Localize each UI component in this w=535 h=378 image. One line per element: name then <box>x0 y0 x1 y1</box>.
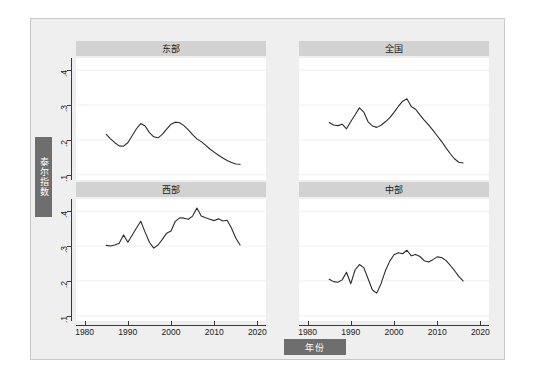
x-tick-mark <box>128 321 129 325</box>
x-tick-label: 2010 <box>201 328 227 337</box>
x-tick-mark <box>257 321 258 325</box>
x-tick-label: 2020 <box>244 328 270 337</box>
y-tick-label: .3 <box>60 246 68 268</box>
panel-title-national: 全国 <box>299 41 489 56</box>
panel-east: 东部 <box>76 41 266 180</box>
y-tick-label: .4 <box>60 211 68 233</box>
x-tick-label: 1990 <box>115 328 141 337</box>
series-line-central <box>329 250 463 293</box>
x-tick-mark <box>351 321 352 325</box>
y-axis-line-row0 <box>71 58 72 180</box>
plot-area-west <box>76 199 266 321</box>
panel-title-east: 东部 <box>76 41 266 56</box>
y-tick-label: .2 <box>60 140 68 162</box>
y-tick-label: .4 <box>60 70 68 92</box>
y-axis-line-row1 <box>71 199 72 321</box>
panel-central: 中部 <box>299 182 489 321</box>
x-tick-label: 2020 <box>467 328 493 337</box>
y-tick-label: .2 <box>60 281 68 303</box>
series-line-national <box>329 99 463 163</box>
x-tick-mark <box>480 321 481 325</box>
plot-area-central <box>299 199 489 321</box>
x-axis-line-col0 <box>76 325 266 326</box>
y-tick-label: .1 <box>60 316 68 338</box>
panel-title-central: 中部 <box>299 182 489 197</box>
x-tick-label: 2010 <box>424 328 450 337</box>
x-tick-mark <box>394 321 395 325</box>
plot-area-east <box>76 58 266 180</box>
panel-title-west: 西部 <box>76 182 266 197</box>
panel-national: 全国 <box>299 41 489 180</box>
x-tick-label: 2000 <box>158 328 184 337</box>
figure-container: 泰尔指数 年份 东部全国西部中部 .1.2.3.4.1.2.3.41980199… <box>30 18 505 360</box>
plot-area-national <box>299 58 489 180</box>
y-tick-label: .3 <box>60 105 68 127</box>
x-tick-label: 1980 <box>295 328 321 337</box>
series-line-west <box>106 208 240 248</box>
series-line-east <box>106 122 240 164</box>
x-tick-mark <box>214 321 215 325</box>
x-tick-mark <box>85 321 86 325</box>
x-tick-label: 2000 <box>381 328 407 337</box>
x-axis-line-col1 <box>299 325 489 326</box>
y-axis-title: 泰尔指数 <box>35 137 52 217</box>
x-tick-mark <box>437 321 438 325</box>
x-tick-label: 1990 <box>338 328 364 337</box>
y-tick-label: .1 <box>60 175 68 197</box>
x-tick-mark <box>308 321 309 325</box>
x-tick-label: 1980 <box>72 328 98 337</box>
x-tick-mark <box>171 321 172 325</box>
panel-west: 西部 <box>76 182 266 321</box>
x-axis-title: 年份 <box>284 339 346 355</box>
